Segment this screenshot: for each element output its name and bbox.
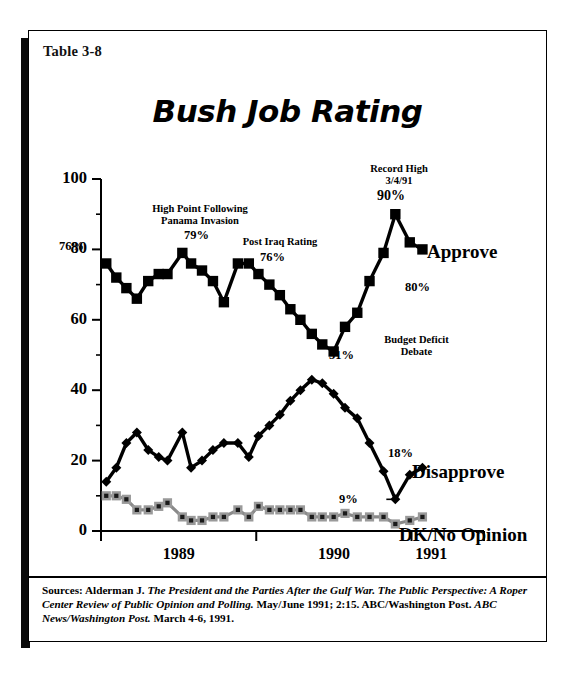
data-point-marker	[233, 258, 243, 268]
data-point-marker	[163, 498, 172, 507]
data-point-marker	[307, 329, 317, 339]
x-axis-tick-label: 1991	[386, 545, 476, 563]
sources-suffix: March 4-6, 1991.	[151, 612, 234, 624]
series-line	[106, 380, 422, 500]
y-axis-tick-label: 40	[29, 379, 87, 399]
data-point-marker	[296, 505, 305, 514]
axes-group	[92, 179, 484, 541]
data-point-marker	[244, 512, 253, 521]
data-point-marker	[219, 512, 228, 521]
data-point-marker	[143, 276, 153, 286]
value-label-post-iraq: 76%	[260, 250, 285, 265]
data-point-marker	[244, 258, 254, 268]
data-point-marker	[329, 512, 338, 521]
series-label-approve: Approve	[427, 241, 497, 263]
data-point-marker	[340, 322, 350, 332]
record-high-annotation: Record High 3/4/91	[344, 163, 454, 187]
data-point-marker	[197, 265, 207, 275]
y-axis-tick-label: 100	[29, 168, 87, 188]
data-point-marker	[186, 258, 196, 268]
figure-frame: Table 3-8 Bush Job Rating 020406080100 1…	[28, 30, 547, 642]
data-point-marker	[144, 505, 153, 514]
data-point-marker	[265, 505, 274, 514]
y-axis-tick-label: 0	[29, 520, 87, 540]
value-label-panama-peak: 79%	[184, 228, 209, 243]
data-point-marker	[275, 290, 285, 300]
data-point-marker	[177, 248, 187, 258]
data-point-marker	[352, 308, 362, 318]
y-axis-tick-label: 60	[29, 309, 87, 329]
data-point-marker	[286, 505, 295, 514]
value-label-end-disapprove: 18%	[388, 446, 413, 461]
data-point-marker	[186, 516, 195, 525]
data-point-marker	[208, 512, 217, 521]
data-point-marker	[285, 304, 295, 314]
data-point-marker	[379, 512, 388, 521]
x-axis-tick-label: 1989	[134, 545, 224, 563]
data-point-marker	[112, 491, 121, 500]
data-point-marker	[418, 512, 427, 521]
data-point-marker	[154, 502, 163, 511]
series-disapprove	[101, 375, 427, 505]
data-point-marker	[102, 491, 111, 500]
value-label-low-approve: 51%	[329, 348, 354, 363]
data-point-marker	[353, 512, 362, 521]
data-point-marker	[378, 248, 388, 258]
x-axis-tick-label: 1990	[289, 545, 379, 563]
data-point-marker	[178, 512, 187, 521]
data-point-marker	[162, 269, 172, 279]
data-point-marker	[121, 283, 131, 293]
value-label-end-approve: 80%	[405, 280, 430, 295]
sources-divider	[29, 576, 546, 578]
series-line	[106, 496, 422, 524]
value-label-low-disapprove: 9%	[339, 492, 358, 507]
data-point-marker	[197, 516, 206, 525]
budget-deficit-annotation: Budget Deficit Debate	[359, 334, 474, 358]
data-point-marker	[364, 276, 374, 286]
value-label-start-approve: 76%	[59, 239, 84, 254]
panama-annotation: High Point Following Panama Invasion	[125, 203, 275, 227]
data-point-marker	[122, 495, 131, 504]
data-point-marker	[390, 209, 400, 219]
data-point-marker	[264, 279, 274, 289]
data-point-marker	[132, 293, 142, 303]
y-axis-tick-label: 20	[29, 450, 87, 470]
data-point-marker	[365, 512, 374, 521]
data-point-marker	[219, 297, 229, 307]
sources-middle: May/June 1991; 2:15. ABC/Washington Post…	[254, 598, 475, 610]
data-point-marker	[111, 272, 121, 282]
data-point-marker	[340, 509, 349, 518]
series-label-dk: DK/No Opinion	[399, 524, 527, 546]
data-point-marker	[233, 505, 242, 514]
data-point-marker	[132, 505, 141, 514]
series-dk-no-opinion	[102, 491, 427, 528]
value-label-record-high: 90%	[377, 188, 405, 204]
data-point-marker	[318, 512, 327, 521]
data-point-marker	[275, 505, 284, 514]
series-label-disapprove: Disapprove	[412, 461, 505, 483]
data-point-marker	[307, 512, 316, 521]
data-point-marker	[101, 258, 111, 268]
sources-text: Sources: Alderman J. The President and t…	[42, 583, 536, 626]
data-point-marker	[253, 269, 263, 279]
data-point-marker	[254, 502, 263, 511]
data-point-marker	[295, 315, 305, 325]
data-point-marker	[317, 339, 327, 349]
data-point-marker	[405, 237, 415, 247]
sources-prefix: Sources: Alderman J.	[42, 584, 147, 596]
post-iraq-annotation: Post Iraq Rating	[225, 236, 335, 248]
data-point-marker	[208, 276, 218, 286]
